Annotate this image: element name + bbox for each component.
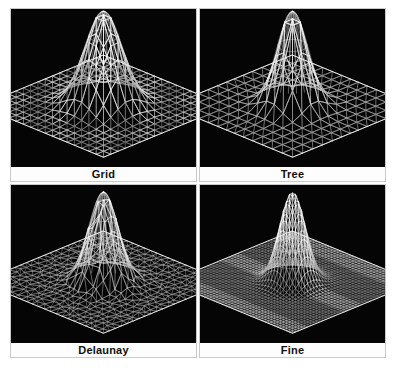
panel-grid-layout: Grid Tree Delaunay Fine <box>11 9 385 357</box>
figure-container: Grid Tree Delaunay Fine <box>0 0 396 372</box>
surface-viewport-delaunay <box>11 185 196 343</box>
figure-caption <box>11 360 385 370</box>
panel-label-grid: Grid <box>11 167 196 181</box>
panel-delaunay: Delaunay <box>11 185 196 357</box>
surface-plot-grid <box>11 9 196 167</box>
surface-plot-delaunay <box>11 185 196 343</box>
surface-plot-fine <box>200 185 385 343</box>
panel-label-delaunay: Delaunay <box>11 343 196 357</box>
panel-grid: Grid <box>11 9 196 181</box>
surface-plot-tree <box>200 9 385 167</box>
panel-label-fine: Fine <box>200 343 385 357</box>
panel-fine: Fine <box>200 185 385 357</box>
surface-viewport-fine <box>200 185 385 343</box>
surface-viewport-tree <box>200 9 385 167</box>
surface-viewport-grid <box>11 9 196 167</box>
panel-label-tree: Tree <box>200 167 385 181</box>
panel-tree: Tree <box>200 9 385 181</box>
